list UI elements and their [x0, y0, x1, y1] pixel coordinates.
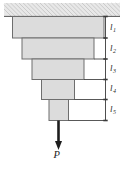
segment-length-subscript: 3	[112, 68, 116, 74]
segment-length-subscript: 5	[113, 109, 116, 115]
fixed-support-hatching	[4, 3, 120, 16]
segment-length-subscript: 2	[113, 48, 116, 54]
column-segment	[13, 17, 105, 39]
figure-canvas: l1l2l3l4l5 P	[0, 0, 130, 173]
segment-length-subscript: 1	[113, 27, 116, 33]
load-label-P: P	[53, 149, 61, 160]
column-segment	[22, 38, 94, 59]
column-segment	[42, 80, 75, 100]
column-segment	[32, 59, 84, 80]
stepped-column-diagram: l1l2l3l4l5 P	[0, 0, 130, 173]
column-segment	[49, 100, 69, 121]
segment-length-subscript: 4	[113, 88, 116, 94]
